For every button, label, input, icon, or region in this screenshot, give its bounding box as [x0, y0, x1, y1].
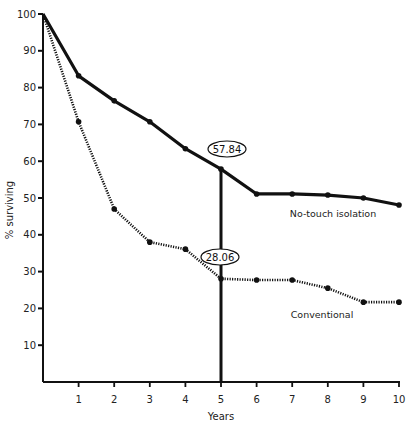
x-tick-label: 2	[111, 394, 117, 405]
data-point	[325, 285, 331, 291]
data-point	[183, 246, 189, 252]
data-point	[183, 146, 189, 152]
data-point	[254, 191, 260, 197]
annotation-57-84: 57.84	[213, 144, 242, 155]
data-point	[396, 299, 402, 305]
data-point	[147, 239, 153, 245]
data-point	[218, 166, 224, 172]
data-point	[361, 195, 367, 201]
data-point	[218, 276, 224, 282]
data-point	[76, 119, 82, 125]
x-axis-title: Years	[207, 411, 234, 422]
survival-chart: 102030405060708090100 12345678910 57.842…	[0, 0, 411, 430]
x-tick-label: 3	[147, 394, 153, 405]
data-point	[254, 277, 260, 283]
x-tick-label: 9	[360, 394, 366, 405]
y-axis-ticks: 102030405060708090100	[17, 9, 43, 351]
series-label-no-touch: No-touch isolation	[290, 208, 376, 219]
y-tick-label: 90	[23, 45, 36, 56]
y-axis-title: % surviving	[4, 181, 15, 239]
y-tick-label: 80	[23, 82, 36, 93]
y-tick-label: 50	[23, 193, 36, 204]
x-tick-label: 10	[393, 394, 406, 405]
x-tick-label: 8	[325, 394, 331, 405]
x-tick-label: 5	[218, 394, 224, 405]
y-tick-label: 40	[23, 229, 36, 240]
y-tick-label: 100	[17, 9, 36, 20]
data-point	[361, 299, 367, 305]
x-tick-label: 6	[253, 394, 259, 405]
data-point	[325, 192, 331, 198]
y-tick-label: 60	[23, 156, 36, 167]
series-label-conventional: Conventional	[291, 309, 354, 320]
data-point	[147, 119, 153, 125]
y-tick-label: 20	[23, 303, 36, 314]
value-annotations: 57.8428.06	[201, 141, 246, 265]
y-tick-label: 70	[23, 119, 36, 130]
x-tick-label: 4	[182, 394, 188, 405]
x-axis-ticks: 12345678910	[75, 382, 405, 405]
x-tick-label: 1	[75, 394, 81, 405]
data-point	[289, 277, 295, 283]
data-point	[111, 206, 117, 212]
data-point	[289, 191, 295, 197]
y-tick-label: 10	[23, 340, 36, 351]
data-point	[396, 202, 402, 208]
y-tick-label: 30	[23, 266, 36, 277]
x-tick-label: 7	[289, 394, 295, 405]
annotation-28-06: 28.06	[206, 252, 235, 263]
data-point	[76, 73, 82, 79]
data-point	[111, 98, 117, 104]
